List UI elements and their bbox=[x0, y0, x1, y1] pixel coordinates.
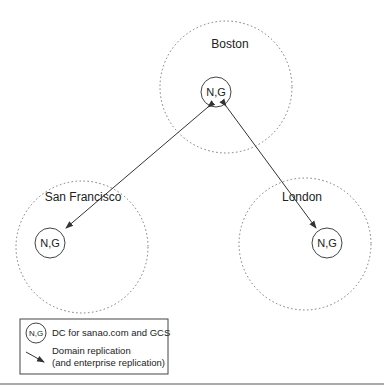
site-london: London N,G bbox=[239, 178, 371, 310]
legend: N,G DC for sanao.com and GCS Domain repl… bbox=[20, 319, 170, 374]
replication-diagram: Boston N,G San Francisco N,G London N,G … bbox=[0, 0, 384, 391]
svg-text:N,G: N,G bbox=[29, 329, 43, 338]
dc-node-label-boston: N,G bbox=[206, 86, 226, 98]
dc-node-label-san-francisco: N,G bbox=[40, 237, 60, 249]
site-label-london: London bbox=[282, 190, 322, 204]
replication-arrow-boston-london bbox=[226, 106, 316, 228]
site-label-boston: Boston bbox=[211, 37, 248, 51]
legend-arrow-desc-2: (and enterprise replication) bbox=[52, 357, 165, 368]
site-san-francisco: San Francisco N,G bbox=[16, 181, 148, 313]
site-label-san-francisco: San Francisco bbox=[45, 190, 122, 204]
legend-arrow-desc-1: Domain replication bbox=[52, 345, 131, 356]
legend-node-desc: DC for sanao.com and GCS bbox=[52, 327, 170, 338]
dc-node-label-london: N,G bbox=[317, 237, 337, 249]
site-boston: Boston N,G bbox=[160, 21, 292, 153]
replication-arrow-boston-sf bbox=[66, 107, 208, 228]
